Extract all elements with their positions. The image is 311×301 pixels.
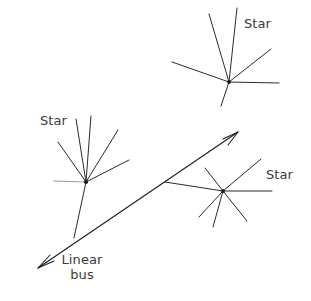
topology-svg xyxy=(0,0,311,301)
star-right-spoke-2 xyxy=(223,159,261,191)
drop-link-star-top xyxy=(221,82,229,106)
star-node-right xyxy=(199,159,272,227)
label-linear-bus-line2: bus xyxy=(55,267,109,282)
label-star-right: Star xyxy=(266,167,293,182)
star-left-hub xyxy=(84,180,88,184)
star-top-spoke-5 xyxy=(172,62,229,82)
star-top-spoke-2 xyxy=(229,8,237,82)
diagram-canvas: Star Star Star Linear bus xyxy=(0,0,311,301)
drop-link-star-right xyxy=(165,182,223,191)
label-linear-bus-line1: Linear xyxy=(55,252,109,267)
bus-arrowhead-backward xyxy=(38,255,54,268)
star-top-spoke-3 xyxy=(229,49,271,82)
drop-links-group xyxy=(74,82,229,238)
label-star-left: Star xyxy=(40,113,67,128)
star-top-spoke-1 xyxy=(209,14,229,82)
label-star-top: Star xyxy=(244,16,271,31)
drop-link-star-left xyxy=(74,182,86,238)
star-right-spoke-5 xyxy=(223,191,247,221)
star-left-spoke-1 xyxy=(54,181,86,182)
star-left-spoke-3 xyxy=(76,119,86,182)
star-left-spoke-2 xyxy=(58,142,86,182)
star-right-hub xyxy=(221,189,225,193)
star-right-spoke-3 xyxy=(205,168,223,191)
star-left-spoke-4 xyxy=(86,116,91,182)
star-top-spoke-4 xyxy=(229,82,279,83)
label-linear-bus: Linear bus xyxy=(55,252,109,282)
linear-bus-backbone xyxy=(38,132,238,268)
star-top-hub xyxy=(227,80,231,84)
linear-bus-group xyxy=(38,132,238,268)
